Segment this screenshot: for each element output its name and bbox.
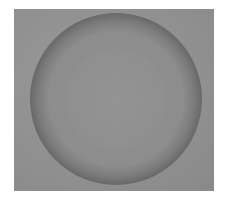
grayscale-photo [14,9,214,191]
ring-center [66,49,166,149]
